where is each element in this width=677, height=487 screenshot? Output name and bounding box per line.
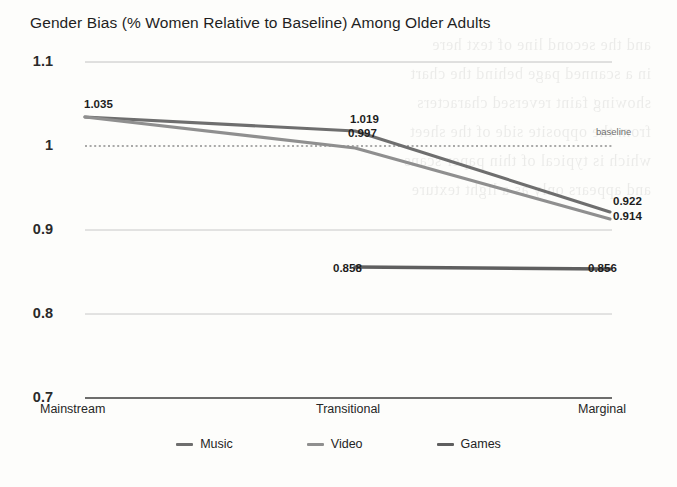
data-label-video-transitional: 0.997 (348, 127, 377, 139)
legend-item-games[interactable]: Games (437, 437, 501, 451)
legend-label-games: Games (461, 437, 501, 451)
legend-label-video: Video (331, 437, 363, 451)
data-label-games-marginal: 0.856 (588, 262, 617, 274)
series-line-games (355, 267, 610, 269)
legend-swatch-music-icon (176, 443, 193, 446)
data-label-music-transitional: 1.019 (350, 113, 379, 125)
data-label-games-transitional: 0.858 (333, 262, 362, 274)
chart-legend: Music Video Games (0, 437, 677, 451)
baseline-annotation-label: baseline (596, 126, 631, 137)
legend-item-music[interactable]: Music (176, 437, 233, 451)
legend-swatch-video-icon (307, 443, 324, 446)
data-label-video-marginal: 0.914 (613, 210, 642, 222)
x-axis-tick-transitional: Transitional (316, 402, 380, 416)
legend-label-music: Music (200, 437, 233, 451)
x-axis-tick-mainstream: Mainstream (40, 402, 105, 416)
legend-swatch-games-icon (437, 443, 454, 446)
data-label-music-marginal: 0.922 (613, 195, 642, 207)
x-axis-tick-marginal: Marginal (578, 402, 626, 416)
chart-figure: Gender Bias (% Women Relative to Baselin… (0, 0, 677, 487)
data-label-music-mainstream: 1.035 (84, 98, 113, 110)
legend-item-video[interactable]: Video (307, 437, 363, 451)
